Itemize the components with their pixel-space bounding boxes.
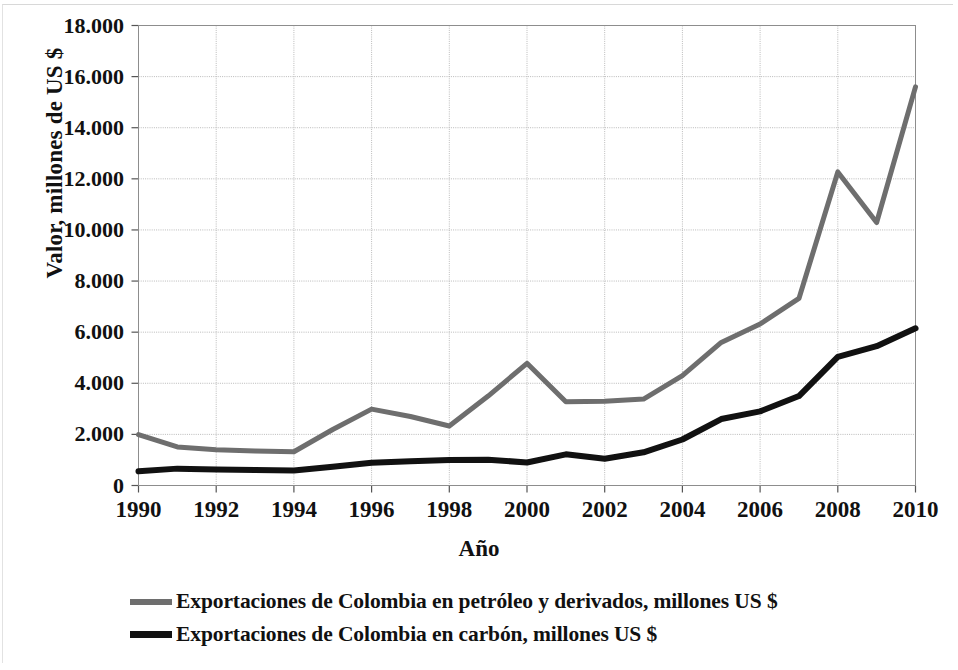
y-axis-tick-label: 0 (16, 475, 124, 497)
legend-item: Exportaciones de Colombia en petróleo y … (0, 585, 958, 618)
y-axis-tick-label: 12.000 (16, 168, 124, 190)
x-axis-tick-label: 2002 (560, 498, 650, 521)
y-axis-tick-label: 16.000 (16, 66, 124, 88)
x-axis-tick-label: 2006 (715, 498, 805, 521)
y-axis-tick-label: 10.000 (16, 219, 124, 241)
y-axis-tick-label: 18.000 (16, 15, 124, 37)
x-axis-tick-label: 1996 (327, 498, 417, 521)
legend-label: Exportaciones de Colombia en petróleo y … (176, 589, 778, 614)
legend-swatch-carbon (130, 631, 172, 638)
legend-swatch-petroleo (130, 599, 172, 605)
x-axis-title: Año (0, 536, 958, 562)
gridlines-group (139, 26, 916, 486)
x-axis-tick-label: 1994 (249, 498, 339, 521)
y-axis-tick-label: 6.000 (16, 321, 124, 343)
x-axis-tick-label: 2004 (637, 498, 727, 521)
legend-label: Exportaciones de Colombia en carbón, mil… (176, 622, 657, 647)
x-axis-tick-label: 1992 (171, 498, 261, 521)
y-axis-tick-label: 4.000 (16, 372, 124, 394)
y-axis-tick-label: 14.000 (16, 117, 124, 139)
chart-plot-region: 18.00016.00014.00012.00010.0008.0006.000… (0, 0, 958, 580)
y-axis-tick-label: 8.000 (16, 270, 124, 292)
x-axis-tick-label: 2000 (482, 498, 572, 521)
y-axis-title: Valor, millones de US $ (42, 13, 68, 313)
x-axis-tick-label: 2008 (793, 498, 883, 521)
legend-item: Exportaciones de Colombia en carbón, mil… (0, 618, 958, 651)
x-axis-tick-label: 1998 (404, 498, 494, 521)
y-axis-tick-label: 2.000 (16, 423, 124, 445)
chart-legend: Exportaciones de Colombia en petróleo y … (0, 585, 958, 651)
x-axis-tick-label: 2010 (871, 498, 958, 521)
x-axis-tick-label: 1990 (94, 498, 184, 521)
line-chart-svg (0, 0, 958, 580)
chart-figure: 18.00016.00014.00012.00010.0008.0006.000… (0, 0, 958, 670)
axis-ticks-group (132, 26, 916, 493)
